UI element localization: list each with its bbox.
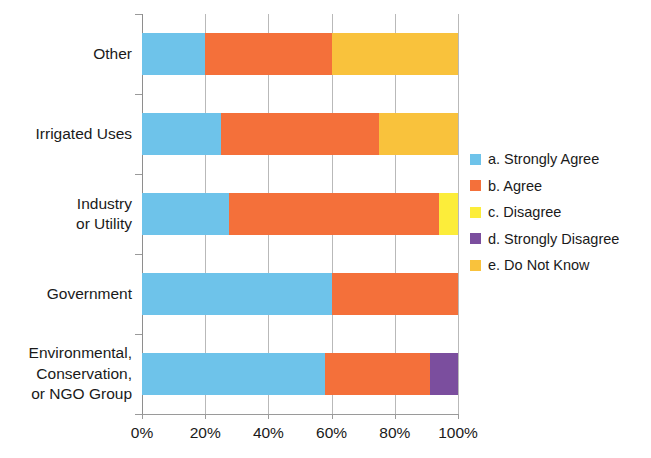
x-tick-mark — [332, 414, 333, 419]
legend-swatch-icon — [470, 207, 481, 218]
bar-segment — [142, 33, 205, 75]
y-tick-mark — [135, 174, 142, 175]
y-axis-category-label: Irrigated Uses — [0, 124, 132, 145]
legend-label: a. Strongly Agree — [488, 151, 599, 167]
legend-item[interactable]: c. Disagree — [470, 199, 648, 226]
bar-segment — [142, 113, 221, 155]
bar-segment — [430, 353, 458, 395]
plot-area — [142, 14, 458, 414]
stacked-bar-chart: OtherIrrigated UsesIndustry or UtilityGo… — [0, 0, 651, 458]
legend-swatch-icon — [470, 260, 481, 271]
legend-label: b. Agree — [488, 178, 542, 194]
legend-item[interactable]: d. Strongly Disagree — [470, 226, 648, 253]
x-tick-mark — [205, 414, 206, 419]
legend-label: c. Disagree — [488, 204, 561, 220]
bar-segment — [205, 33, 331, 75]
x-tick-mark — [395, 414, 396, 419]
bar-row — [142, 113, 458, 155]
legend-item[interactable]: e. Do Not Know — [470, 252, 648, 279]
x-axis-tick-label: 40% — [238, 424, 298, 442]
bar-row — [142, 353, 458, 395]
y-tick-mark — [135, 334, 142, 335]
bar-segment — [221, 113, 379, 155]
x-axis-tick-label: 20% — [175, 424, 235, 442]
chart-legend: a. Strongly Agreeb. Agreec. Disagreed. S… — [470, 146, 648, 279]
x-axis-tick-label: 60% — [302, 424, 362, 442]
y-axis-category-label: Industry or Utility — [0, 194, 132, 235]
x-axis-tick-label: 0% — [112, 424, 172, 442]
y-axis-category-label: Other — [0, 44, 132, 65]
bar-segment — [439, 193, 458, 235]
bar-row — [142, 273, 458, 315]
bar-row — [142, 193, 458, 235]
y-tick-mark — [135, 14, 142, 15]
x-tick-mark — [142, 414, 143, 419]
y-axis-category-label: Environmental, Conservation, or NGO Grou… — [0, 343, 132, 405]
y-tick-mark — [135, 414, 142, 415]
bar-segment — [379, 113, 458, 155]
legend-label: e. Do Not Know — [488, 257, 590, 273]
bar-segment — [229, 193, 439, 235]
legend-swatch-icon — [470, 180, 481, 191]
bar-segment — [142, 193, 229, 235]
y-tick-mark — [135, 94, 142, 95]
bar-row — [142, 33, 458, 75]
legend-swatch-icon — [470, 233, 481, 244]
bar-segment — [332, 273, 458, 315]
x-tick-mark — [268, 414, 269, 419]
legend-item[interactable]: b. Agree — [470, 173, 648, 200]
legend-swatch-icon — [470, 154, 481, 165]
legend-item[interactable]: a. Strongly Agree — [470, 146, 648, 173]
bar-segment — [332, 33, 458, 75]
y-tick-mark — [135, 254, 142, 255]
bar-segment — [325, 353, 429, 395]
x-axis-line — [142, 414, 459, 415]
x-axis-tick-label: 80% — [365, 424, 425, 442]
x-axis-tick-label: 100% — [428, 424, 488, 442]
legend-label: d. Strongly Disagree — [488, 231, 619, 247]
y-axis-category-label: Government — [0, 284, 132, 305]
bar-segment — [142, 273, 332, 315]
bar-segment — [142, 353, 325, 395]
gridline-100 — [458, 14, 459, 414]
x-tick-mark — [458, 414, 459, 419]
